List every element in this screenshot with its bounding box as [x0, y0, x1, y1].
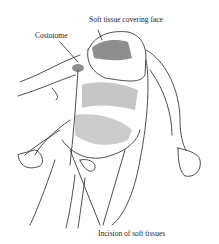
label-costotome: Costotome: [35, 32, 68, 40]
anatomical-illustration: [0, 0, 219, 244]
label-soft-tissue: Soft tissue covering face: [89, 16, 163, 24]
label-incision: Incision of soft tissues: [98, 230, 165, 238]
